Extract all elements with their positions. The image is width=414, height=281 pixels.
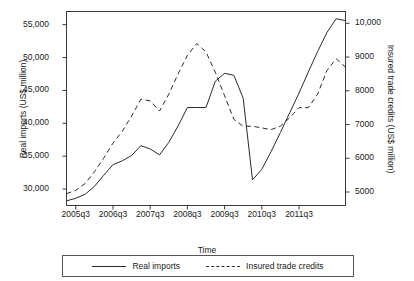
y-axis-left-tick-label: 35,000 bbox=[0, 150, 49, 160]
legend-swatch-solid-icon bbox=[92, 266, 126, 267]
y-axis-right-tick-label: 8000 bbox=[355, 85, 414, 95]
legend-item-insured-trade-credits: Insured trade credits bbox=[206, 261, 323, 271]
chart-legend: Real imports Insured trade credits bbox=[62, 255, 354, 277]
legend-swatch-dashed-icon bbox=[206, 266, 240, 267]
series-line-real-imports bbox=[67, 19, 346, 201]
legend-label-insured-trade-credits: Insured trade credits bbox=[246, 261, 323, 271]
series-line-insured-trade-credits bbox=[67, 44, 346, 194]
chart-container: Real imports (US$ million) Insured trade… bbox=[0, 0, 414, 281]
y-axis-right-tick-label: 5000 bbox=[355, 186, 414, 196]
y-axis-left-tick-label: 45,000 bbox=[0, 84, 49, 94]
plot-frame bbox=[67, 12, 346, 206]
y-axis-left-tick-label: 50,000 bbox=[0, 52, 49, 62]
y-axis-right-tick-label: 7000 bbox=[355, 119, 414, 129]
x-axis-tick-label: 2011q3 bbox=[269, 209, 329, 219]
y-axis-right-tick-label: 9000 bbox=[355, 51, 414, 61]
y-axis-left-tick-label: 30,000 bbox=[0, 183, 49, 193]
y-axis-right-ticks bbox=[346, 23, 350, 192]
plot-area bbox=[0, 0, 414, 281]
y-axis-right-tick-label: 10,000 bbox=[355, 17, 414, 27]
y-axis-right-tick-label: 6000 bbox=[355, 152, 414, 162]
legend-label-real-imports: Real imports bbox=[132, 261, 180, 271]
y-axis-left-ticks bbox=[63, 25, 67, 189]
legend-item-real-imports: Real imports bbox=[92, 261, 180, 271]
y-axis-left-tick-label: 40,000 bbox=[0, 117, 49, 127]
y-axis-left-tick-label: 55,000 bbox=[0, 19, 49, 29]
